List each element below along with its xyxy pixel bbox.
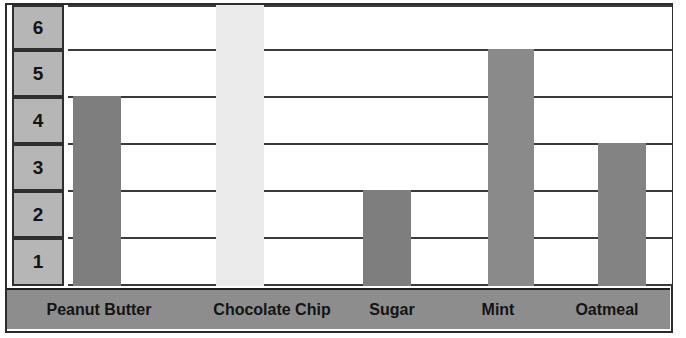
bar-peanut-butter[interactable] (73, 96, 121, 286)
bar-mint[interactable] (488, 49, 534, 286)
x-label-mint: Mint (453, 290, 543, 329)
y-axis-labels: 6 5 4 3 2 1 (7, 5, 68, 286)
y-tick-2: 2 (12, 191, 64, 238)
x-label-sugar: Sugar (347, 290, 437, 329)
x-label-oatmeal: Oatmeal (552, 290, 662, 329)
gridline-4 (68, 96, 672, 98)
y-tick-4: 4 (12, 97, 64, 144)
y-tick-6: 6 (12, 5, 64, 50)
y-tick-1: 1 (12, 238, 64, 286)
x-axis-band: Peanut Butter Chocolate Chip Sugar Mint … (7, 288, 670, 329)
bar-sugar[interactable] (363, 190, 411, 286)
y-tick-3: 3 (12, 144, 64, 191)
gridline-6 (68, 5, 672, 7)
bar-chart: 6 5 4 3 2 1 Peanut Butter Chocolate Chip… (0, 0, 686, 338)
bar-oatmeal[interactable] (598, 143, 646, 286)
plot-area (68, 5, 672, 286)
x-label-chocolate-chip: Chocolate Chip (197, 290, 347, 329)
bar-chocolate-chip[interactable] (216, 5, 264, 286)
y-tick-5: 5 (12, 50, 64, 97)
gridline-3 (68, 143, 672, 145)
x-label-peanut-butter: Peanut Butter (29, 290, 169, 329)
gridline-5 (68, 49, 672, 51)
